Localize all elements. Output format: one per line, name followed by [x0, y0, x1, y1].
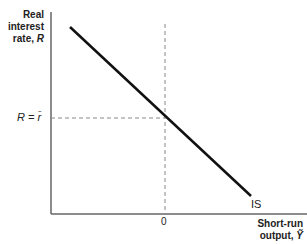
- r-equals-rbar-label: R = r̄: [17, 111, 41, 123]
- x-label-var: Ỹ: [296, 230, 303, 241]
- x-label-line1: Short-run: [253, 218, 303, 230]
- y-label-text: rate,: [13, 33, 37, 44]
- is-curve-label: IS: [251, 198, 261, 210]
- x-label-text: output,: [260, 230, 297, 241]
- y-axis-label: Real interest rate, R: [8, 9, 44, 45]
- y-label-line1: Real: [8, 9, 44, 21]
- is-curve: [70, 27, 251, 196]
- x-label-line2: output, Ỹ: [253, 230, 303, 242]
- y-label-line2: interest: [8, 21, 44, 33]
- x-tick-zero: 0: [161, 216, 167, 227]
- x-axis-label: Short-run output, Ỹ: [253, 218, 303, 242]
- y-label-line3: rate, R: [8, 33, 44, 45]
- y-label-var: R: [37, 33, 44, 44]
